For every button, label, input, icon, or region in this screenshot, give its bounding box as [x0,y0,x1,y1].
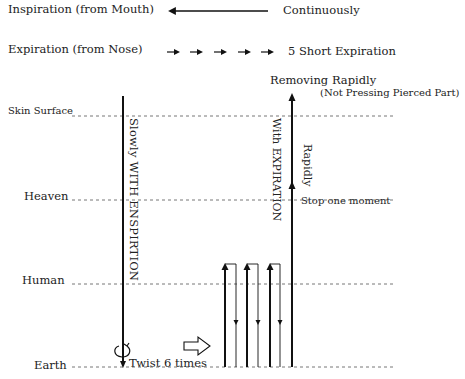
insertion-arrow-icon [120,96,126,368]
cycle-2 [244,263,261,367]
withdrawal-arrow-icon [289,93,296,367]
hollow-right-arrow-icon [184,337,210,355]
level-lines [72,116,395,367]
cycle-1 [222,263,239,367]
diagram-canvas [0,0,465,379]
lift-thrust-cycles [222,263,283,367]
cycle-3 [267,263,283,367]
